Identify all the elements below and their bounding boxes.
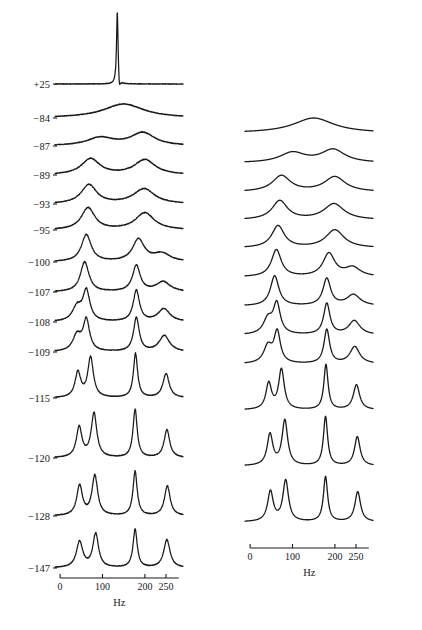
spectrum-trace xyxy=(245,364,373,409)
temperature-label: −115 xyxy=(29,393,50,404)
spectrum-trace xyxy=(245,118,373,131)
spectrum-trace xyxy=(55,13,183,85)
axis-tick-label: 100 xyxy=(95,581,110,592)
spectrum-curve xyxy=(55,13,183,85)
spectrum-trace xyxy=(245,416,373,465)
spectrum-trace xyxy=(55,409,183,457)
axis-tick-label: 0 xyxy=(58,581,63,592)
spectrum-curve xyxy=(245,300,373,333)
spectrum-curve xyxy=(245,249,373,275)
x-axis-left: 0100200250Hz xyxy=(58,574,179,608)
temperature-labels: +25−84−87−89−93−95−100−107−108−109−115−1… xyxy=(28,79,57,574)
spectrum-curve xyxy=(55,409,183,457)
spectrum-trace xyxy=(55,471,183,516)
axis-tick-label: 200 xyxy=(137,581,152,592)
spectrum-curve xyxy=(245,364,373,409)
x-axis-right: 0100200250Hz xyxy=(248,544,369,578)
spectrum-curve xyxy=(55,207,183,229)
spectrum-trace xyxy=(245,175,373,190)
axis-tick-label: 0 xyxy=(248,551,253,562)
spectrum-trace xyxy=(55,353,183,398)
spectrum-curve xyxy=(55,471,183,516)
temperature-label: −107 xyxy=(28,287,50,298)
temperature-label: −100 xyxy=(28,257,50,268)
spectrum-curve xyxy=(245,416,373,465)
spectra-column-experimental xyxy=(55,13,183,567)
temperature-label: −147 xyxy=(28,563,50,574)
spectra-figure: +25−84−87−89−93−95−100−107−108−109−115−1… xyxy=(0,0,422,630)
spectrum-trace xyxy=(245,149,373,162)
spectrum-trace xyxy=(55,529,183,567)
spectrum-trace xyxy=(55,184,183,203)
axis-unit-label: Hz xyxy=(303,567,316,578)
spectra-canvas: +25−84−87−89−93−95−100−107−108−109−115−1… xyxy=(0,0,422,630)
temperature-label: −84 xyxy=(34,113,51,124)
spectrum-curve xyxy=(55,529,183,567)
temperature-label: +25 xyxy=(34,79,50,90)
spectrum-curve xyxy=(245,200,373,218)
spectrum-curve xyxy=(55,234,183,261)
spectrum-curve xyxy=(245,118,373,131)
temperature-label: −108 xyxy=(28,317,50,328)
spectrum-trace xyxy=(55,207,183,229)
axis-unit-label: Hz xyxy=(113,597,126,608)
spectrum-curve xyxy=(245,149,373,162)
spectrum-trace xyxy=(245,249,373,275)
temperature-label: −109 xyxy=(28,347,50,358)
spectrum-curve xyxy=(245,276,373,305)
spectrum-curve xyxy=(245,329,373,363)
spectrum-trace xyxy=(55,234,183,261)
spectrum-trace xyxy=(55,261,183,291)
spectrum-trace xyxy=(245,300,373,333)
spectrum-trace xyxy=(245,329,373,363)
spectrum-curve xyxy=(245,175,373,190)
temperature-label: −128 xyxy=(28,511,50,522)
spectrum-curve xyxy=(55,104,183,117)
spectrum-trace xyxy=(55,288,183,321)
temperature-label: −93 xyxy=(34,199,50,210)
spectrum-trace xyxy=(245,276,373,305)
spectrum-curve xyxy=(55,261,183,291)
temperature-label: −89 xyxy=(34,170,50,181)
spectrum-curve xyxy=(55,158,183,174)
spectrum-trace xyxy=(245,225,373,246)
temperature-label: −95 xyxy=(34,225,50,236)
spectrum-curve xyxy=(55,132,183,145)
spectrum-trace xyxy=(245,476,373,521)
spectrum-trace xyxy=(55,317,183,351)
temperature-label: −87 xyxy=(34,141,50,152)
spectrum-trace xyxy=(55,132,183,145)
spectrum-trace xyxy=(55,104,183,117)
spectrum-curve xyxy=(245,476,373,521)
spectra-column-simulated xyxy=(245,118,373,521)
spectrum-curve xyxy=(55,184,183,203)
axis-tick-label: 100 xyxy=(285,551,300,562)
spectrum-curve xyxy=(245,225,373,246)
temperature-label: −120 xyxy=(28,453,50,464)
axis-tick-label: 250 xyxy=(159,581,174,592)
spectrum-curve xyxy=(55,288,183,321)
spectrum-curve xyxy=(55,317,183,351)
axis-tick-label: 250 xyxy=(349,551,364,562)
spectrum-curve xyxy=(55,353,183,398)
spectrum-trace xyxy=(245,200,373,218)
spectrum-trace xyxy=(55,158,183,174)
axis-tick-label: 200 xyxy=(327,551,342,562)
